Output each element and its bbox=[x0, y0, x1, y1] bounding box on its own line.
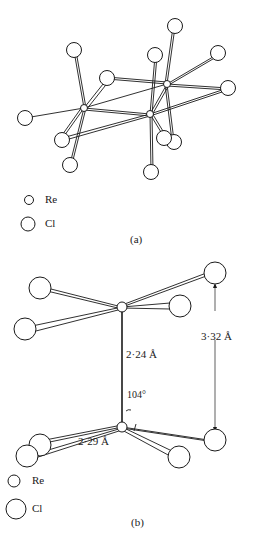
figure-b-atoms bbox=[14, 262, 226, 468]
legend-re-symbol bbox=[8, 475, 20, 487]
legend-re-label: Re bbox=[32, 474, 44, 486]
legend-cl-label: Cl bbox=[45, 217, 55, 229]
legend-re-symbol bbox=[25, 196, 34, 205]
re-cl-distance-label: 2·29 Å bbox=[78, 435, 109, 447]
re-re-distance-label: 2·24 Å bbox=[126, 348, 157, 360]
legend-re-label: Re bbox=[45, 193, 57, 205]
legend-cl-symbol bbox=[21, 217, 35, 231]
figure-a-caption: (a) bbox=[130, 233, 142, 245]
cl-cl-distance-label: 3·32 Å bbox=[201, 330, 232, 342]
angle-label: 104° bbox=[127, 389, 146, 400]
re3cl9-structure-diagram bbox=[0, 0, 256, 538]
legend-cl-label: Cl bbox=[32, 502, 42, 514]
figure-a-atoms bbox=[18, 19, 236, 180]
figure-a-bonds bbox=[25, 27, 228, 171]
legend-cl-symbol bbox=[6, 499, 26, 519]
figure-b-caption: (b) bbox=[131, 516, 144, 528]
